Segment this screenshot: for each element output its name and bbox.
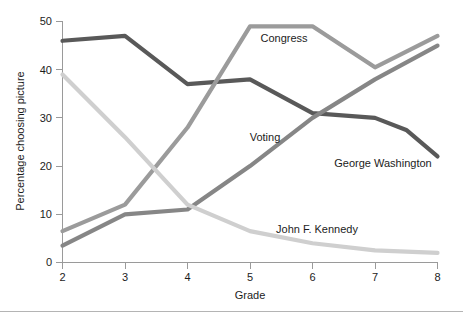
series-label-john-f-kennedy: John F. Kennedy <box>276 223 358 235</box>
x-tick-label-2: 2 <box>59 271 65 283</box>
chart-canvas: 0 10 20 30 40 50 2 3 4 5 6 7 8 Grade Per… <box>0 0 463 318</box>
y-tick-label-0: 0 <box>46 256 52 268</box>
y-tick-label-50: 50 <box>40 15 52 27</box>
x-tick-label-4: 4 <box>184 271 190 283</box>
series-line-voting <box>63 46 438 246</box>
y-tick-label-10: 10 <box>40 208 52 220</box>
y-tick-label-30: 30 <box>40 112 52 124</box>
x-tick-label-5: 5 <box>247 271 253 283</box>
x-tick-label-8: 8 <box>434 271 440 283</box>
series-label-congress: Congress <box>260 32 308 44</box>
x-tick-label-7: 7 <box>372 271 378 283</box>
line-chart-figure: 0 10 20 30 40 50 2 3 4 5 6 7 8 Grade Per… <box>0 0 463 318</box>
x-tick-group: 2 3 4 5 6 7 8 <box>59 263 440 284</box>
x-tick-label-6: 6 <box>309 271 315 283</box>
series-label-george-washington: George Washington <box>334 157 431 169</box>
y-axis-title: Percentage choosing picture <box>14 71 26 210</box>
x-tick-label-3: 3 <box>122 271 128 283</box>
y-tick-label-40: 40 <box>40 64 52 76</box>
series-label-voting: Voting <box>250 131 281 143</box>
y-tick-label-20: 20 <box>40 160 52 172</box>
x-axis-title: Grade <box>235 289 266 301</box>
y-tick-group: 0 10 20 30 40 50 <box>40 15 63 268</box>
